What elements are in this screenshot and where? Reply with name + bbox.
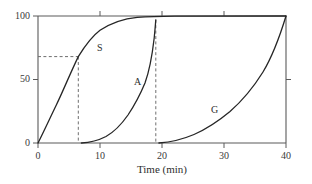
curve-label-s: S — [97, 42, 103, 53]
y-tick-label-50: 50 — [4, 73, 30, 84]
axis-frame — [38, 16, 286, 143]
y-axis-ticks — [33, 16, 291, 143]
curve-g — [159, 16, 286, 143]
x-tick-label-30: 30 — [212, 150, 236, 161]
x-tick-label-10: 10 — [88, 150, 112, 161]
x-axis-ticks — [38, 143, 286, 148]
curve-label-a: A — [134, 76, 141, 87]
x-tick-label-0: 0 — [26, 150, 50, 161]
x-axis-title: Time (min) — [106, 163, 218, 175]
x-axis-ticks-top — [100, 11, 224, 16]
curve-s — [38, 16, 286, 143]
x-tick-label-20: 20 — [150, 150, 174, 161]
y-tick-label-0: 0 — [4, 137, 30, 148]
curve-label-g: G — [211, 104, 218, 115]
x-tick-label-40: 40 — [274, 150, 298, 161]
curve-a — [81, 20, 155, 143]
chart-figure: 100 50 0 0 10 20 30 40 S A G Time (min) — [0, 0, 312, 184]
y-tick-label-100: 100 — [4, 10, 30, 21]
